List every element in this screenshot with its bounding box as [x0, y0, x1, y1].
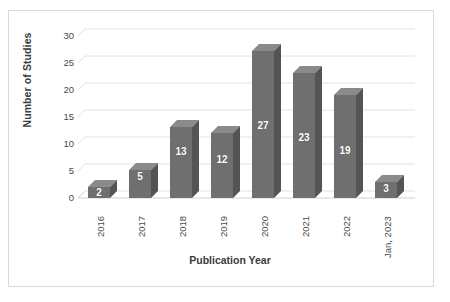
x-tick-2018: 2018	[177, 216, 188, 237]
x-tick-2020: 2020	[259, 216, 270, 237]
x-tick-2016: 2016	[95, 216, 106, 237]
plot-area: 30 25 20 15 10 5 0 Number of Studies 2	[0, 0, 450, 302]
bar-chart: 30 25 20 15 10 5 0 Number of Studies 2	[0, 0, 450, 302]
x-axis-title: Publication Year	[120, 254, 340, 266]
x-tick-2022: 2022	[341, 216, 352, 237]
x-tick-2019: 2019	[218, 216, 229, 237]
x-tick-2021: 2021	[300, 216, 311, 237]
x-tick-jan-2023: Jan, 2023	[382, 216, 393, 258]
x-tick-2017: 2017	[136, 216, 147, 237]
